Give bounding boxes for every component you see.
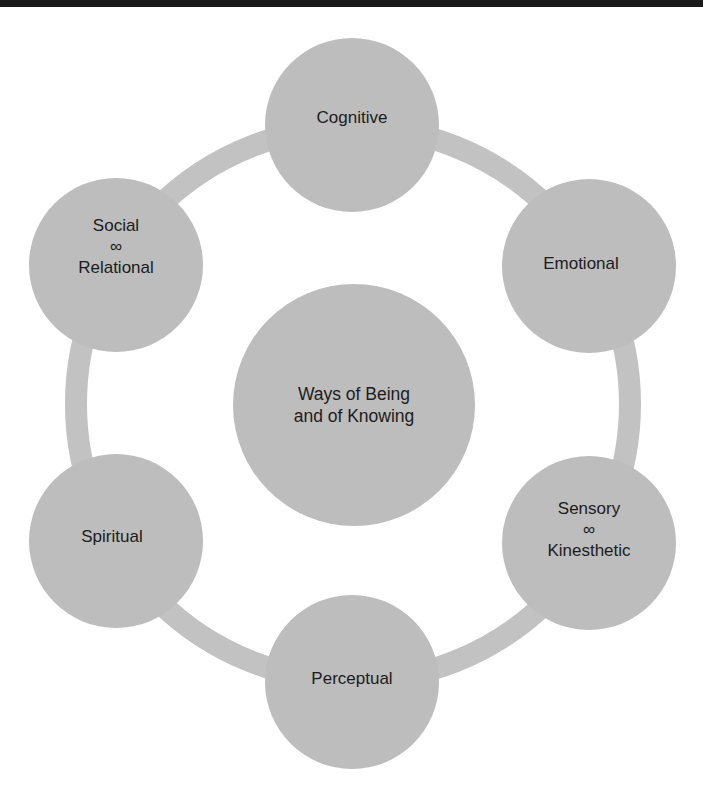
infinity-icon: ∞ — [110, 237, 122, 257]
node-label: Emotional — [543, 253, 619, 275]
center-node-ways-of-being: Ways of Being and of Knowing — [233, 284, 475, 526]
node-emotional: Emotional — [502, 179, 676, 353]
node-label-line2: Kinesthetic — [547, 540, 630, 562]
center-label-line2: and of Knowing — [294, 405, 415, 427]
infinity-icon: ∞ — [583, 520, 595, 540]
node-social-relational: Social ∞ Relational — [29, 178, 203, 352]
node-label-line1: Social — [93, 215, 139, 237]
node-cognitive: Cognitive — [265, 38, 439, 212]
node-sensory-kinesthetic: Sensory ∞ Kinesthetic — [502, 456, 676, 630]
node-label: Perceptual — [311, 668, 392, 690]
center-label-line1: Ways of Being — [298, 383, 410, 405]
node-perceptual: Perceptual — [265, 595, 439, 769]
node-label-line2: Relational — [78, 257, 154, 279]
node-label-line1: Sensory — [558, 498, 620, 520]
node-label: Cognitive — [317, 107, 388, 129]
node-spiritual: Spiritual — [29, 454, 203, 628]
node-label: Spiritual — [81, 526, 142, 548]
